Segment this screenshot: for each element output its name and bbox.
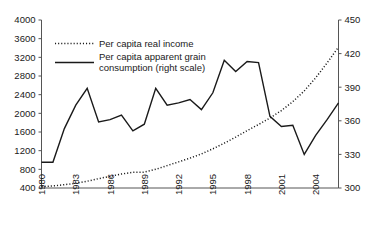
legend-label-grain-consumption-line1: Per capita apparent grain — [99, 51, 206, 62]
x-axis-tick-label: 1995 — [207, 174, 218, 195]
chart-figure: 4000360032002800240020001600120080040045… — [0, 0, 372, 233]
left-axis-tick-label: 4000 — [14, 14, 35, 25]
x-axis-tick-label: 1983 — [70, 174, 81, 195]
right-axis-tick-label: 420 — [345, 48, 361, 59]
left-axis-tick-label: 1200 — [14, 145, 35, 156]
x-axis-tick-label: 1980 — [36, 174, 47, 195]
x-axis-tick-label: 2001 — [276, 174, 287, 195]
legend-label-real-income: Per capita real income — [99, 38, 194, 49]
left-axis-tick-label: 3200 — [14, 52, 35, 63]
left-axis-tick-label: 3600 — [14, 33, 35, 44]
x-axis-tick-label: 1989 — [139, 174, 150, 195]
line-chart: 4000360032002800240020001600120080040045… — [0, 0, 372, 233]
right-axis-tick-label: 300 — [345, 182, 361, 193]
series-path-grain-consumption — [42, 60, 339, 162]
right-axis-tick-label: 360 — [345, 115, 361, 126]
left-axis-tick-label: 2800 — [14, 70, 35, 81]
right-axis-tick-label: 450 — [345, 14, 361, 25]
left-axis-tick-label: 1600 — [14, 126, 35, 137]
left-axis-tick-label: 2400 — [14, 89, 35, 100]
left-axis-tick-label: 400 — [20, 182, 36, 193]
left-axis-tick-label: 2000 — [14, 108, 35, 119]
legend-label-grain-consumption-line2: consumption (right scale) — [99, 62, 205, 73]
right-axis-tick-label: 330 — [345, 149, 361, 160]
x-axis-tick-label: 1998 — [242, 174, 253, 195]
left-axis-tick-label: 800 — [20, 164, 36, 175]
right-axis-tick-label: 390 — [345, 82, 361, 93]
x-axis-tick-label: 1992 — [173, 174, 184, 195]
x-axis-tick-label: 2004 — [310, 174, 321, 195]
